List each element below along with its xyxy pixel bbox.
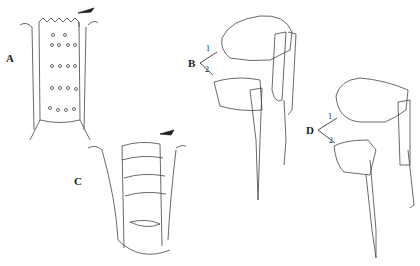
marker-d-2: 2 bbox=[329, 136, 333, 145]
panel-label-d: D bbox=[306, 124, 314, 136]
line-drawing bbox=[0, 0, 420, 266]
marker-b-1: 1 bbox=[206, 44, 210, 53]
panel-c-drawing bbox=[88, 142, 186, 254]
panel-label-c: C bbox=[74, 175, 82, 187]
arrow-a bbox=[78, 8, 94, 13]
figure-plate: A C B 1 2 D 1 2 bbox=[0, 0, 420, 266]
panel-d-drawing bbox=[334, 78, 414, 258]
marker-d-1: 1 bbox=[328, 112, 332, 121]
panel-a-drawing bbox=[20, 18, 98, 140]
arrow-c bbox=[160, 130, 174, 135]
panel-label-a: A bbox=[6, 52, 14, 64]
marker-b-2: 2 bbox=[205, 65, 209, 74]
panel-b-drawing bbox=[214, 16, 296, 200]
panel-label-b: B bbox=[188, 57, 195, 69]
